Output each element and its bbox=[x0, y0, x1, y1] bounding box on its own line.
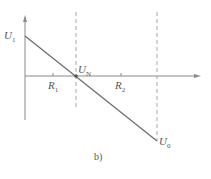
y-axis-arrow-icon bbox=[23, 15, 27, 22]
label-r2: R2 bbox=[115, 80, 125, 94]
label-un: UN bbox=[78, 64, 91, 78]
voltage-diagram bbox=[0, 0, 211, 179]
x-axis-arrow-icon bbox=[194, 74, 201, 78]
voltage-line bbox=[25, 36, 157, 141]
figure-caption: b) bbox=[94, 152, 102, 162]
label-u1: U1 bbox=[4, 30, 15, 44]
label-r1: R1 bbox=[48, 80, 58, 94]
label-u0: U0 bbox=[159, 136, 170, 150]
